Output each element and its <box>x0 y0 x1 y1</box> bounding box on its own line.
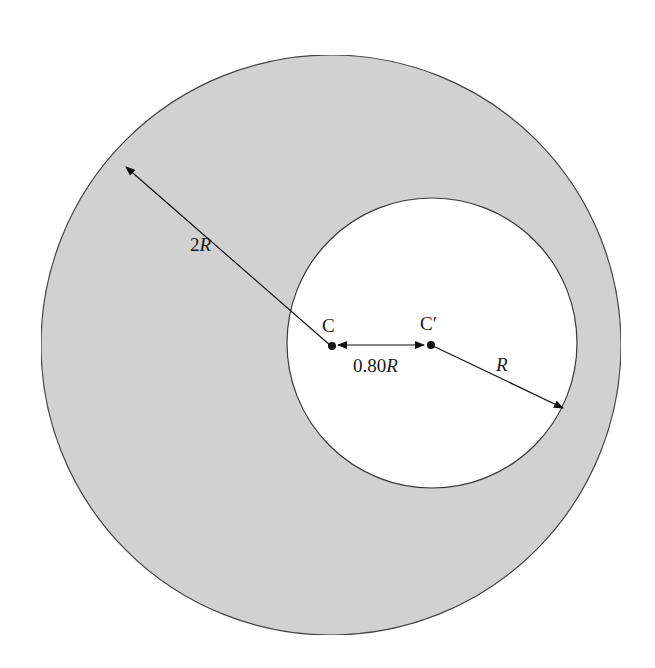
separation-label-number: 0.80 <box>353 355 386 376</box>
separation-label: 0.80R <box>353 356 398 375</box>
center-point-c <box>328 342 336 350</box>
center-point-c-prime <box>427 341 435 349</box>
outer-radius-label: 2R <box>190 235 211 254</box>
outer-radius-label-number: 2 <box>190 234 200 255</box>
center-c-label: C <box>322 316 335 335</box>
center-c-prime-label: C′ <box>420 314 437 333</box>
inner-radius-label: R <box>496 355 508 374</box>
outer-radius-label-var: R <box>200 234 212 255</box>
separation-label-var: R <box>386 355 398 376</box>
